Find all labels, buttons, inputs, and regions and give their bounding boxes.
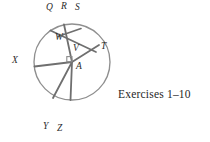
point-label-v: V xyxy=(73,44,79,54)
point-label-x: X xyxy=(12,56,18,66)
point-label-y: Y xyxy=(43,122,48,132)
figure-caption: Exercises 1–10 xyxy=(118,88,191,100)
radius-a-y xyxy=(53,62,72,98)
point-label-s: S xyxy=(75,3,80,13)
point-label-z: Z xyxy=(57,124,62,134)
point-label-q: Q xyxy=(46,3,53,13)
radius-x-a xyxy=(35,62,73,67)
radius-a-z xyxy=(71,62,73,100)
point-label-a: A xyxy=(76,62,82,72)
circle-diagram xyxy=(0,0,210,142)
geometry-figure: Q R S T W V A X Y Z Exercises 1–10 xyxy=(0,0,210,142)
point-label-w: W xyxy=(55,33,63,43)
point-label-t: T xyxy=(101,42,106,52)
point-label-r: R xyxy=(61,2,67,12)
